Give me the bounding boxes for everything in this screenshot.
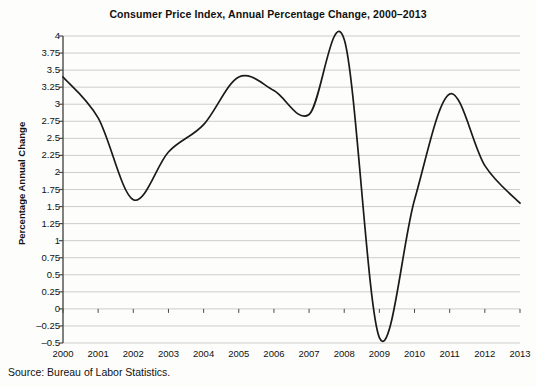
x-tick-label: 2001	[81, 348, 115, 359]
x-tick-label: 2013	[503, 348, 536, 359]
source-note: Source: Bureau of Labor Statistics.	[8, 366, 170, 378]
chart-page: Consumer Price Index, Annual Percentage …	[0, 0, 536, 387]
x-tick-label: 2005	[222, 348, 256, 359]
x-tick-label: 2000	[46, 348, 80, 359]
x-axis-tick-labels: 2000200120022003200420052006200720082009…	[0, 0, 536, 387]
x-tick-label: 2011	[433, 348, 467, 359]
x-tick-label: 2009	[362, 348, 396, 359]
x-tick-label: 2007	[292, 348, 326, 359]
x-tick-label: 2006	[257, 348, 291, 359]
x-tick-label: 2010	[398, 348, 432, 359]
x-tick-label: 2008	[327, 348, 361, 359]
x-tick-label: 2002	[116, 348, 150, 359]
x-tick-label: 2012	[468, 348, 502, 359]
x-tick-label: 2003	[151, 348, 185, 359]
x-tick-label: 2004	[187, 348, 221, 359]
